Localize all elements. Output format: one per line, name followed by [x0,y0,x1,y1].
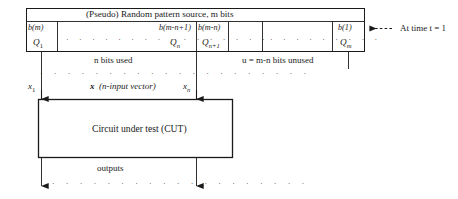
register-cell-4-stage: Qm [340,38,351,49]
register-header: (Pseudo) Random pattern source, m bits [86,10,234,19]
outputs-label: outputs [97,164,124,173]
register-cell-4-bit: b(1) [338,24,352,32]
register-cell-1-stage: Q1 [33,38,43,49]
register-cell-1-bit: b(m) [28,24,43,32]
register-ellipsis-left: · · · · · · · · · · · · · · · · [66,36,269,44]
register-cell-2-bit: b(m-n+1) [159,24,191,32]
bits-unused-label: u = m-n bits unused [242,56,314,65]
diagram-lines [0,0,458,199]
register-header-text: (Pseudo) Random pattern source, m bits [86,9,234,19]
vector-label: x (n-input vector) [90,82,156,91]
bits-used-label: n bits used [94,56,133,65]
register-cell-3-stage: Qn+1 [202,38,220,49]
diagram-canvas: (Pseudo) Random pattern source, m bits b… [0,0,458,199]
outputs-ellipsis: · · · · · · · · · · · · · · · · · · · [52,180,309,188]
register-cell-3-bit: b(m-n) [198,24,220,32]
input-label-x1: x1 [28,82,35,93]
register-cell-2-stage: Qn [170,38,180,49]
register-ellipsis-right: · · · · · · · · · [270,36,381,44]
vector-ellipsis: · · · · · · · · · · · · · · · · · · · · [40,70,311,78]
cut-label: Circuit under test (CUT) [92,124,187,134]
time-annotation: At time t = 1 [400,24,446,33]
input-label-xn: xn [183,82,190,93]
